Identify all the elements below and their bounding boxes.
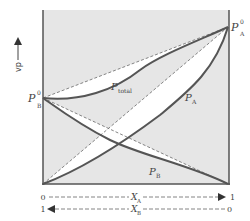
ptotal-main: P <box>110 81 118 92</box>
xa-axis-row: 0 X A 1 <box>40 192 235 204</box>
up-arrow-icon <box>14 37 22 45</box>
pa0-main: P <box>230 21 239 34</box>
pb0-sup: 0 <box>37 89 41 96</box>
ptotal-sub: total <box>118 87 132 94</box>
xa-start: 0 <box>40 193 45 202</box>
xb-end: 0 <box>227 205 232 214</box>
pb0-main: P <box>27 92 36 105</box>
pb0-sub: B <box>37 102 42 109</box>
left-arrow-icon <box>47 205 55 213</box>
label-pa0: P 0 A <box>230 18 245 37</box>
pb-sub: B <box>156 172 161 179</box>
pa0-sub: A <box>239 30 245 37</box>
pa0-sup: 0 <box>240 18 244 25</box>
xb-sub: B <box>137 210 141 216</box>
label-pb0: P 0 B <box>27 89 42 109</box>
y-axis-label: vp <box>14 62 23 72</box>
pa-sub: A <box>191 98 197 105</box>
pb-main: P <box>148 166 156 177</box>
y-axis-label-group: vp <box>14 37 23 72</box>
pa-main: P <box>184 92 192 103</box>
xb-start: 1 <box>40 205 45 214</box>
right-arrow-icon <box>218 193 226 201</box>
vapour-pressure-diagram: vp P 0 B P 0 A P total P A P B 0 X A 1 1 <box>0 0 250 221</box>
xa-end: 1 <box>230 193 235 202</box>
xb-axis-row: 1 X B 0 <box>40 204 232 216</box>
